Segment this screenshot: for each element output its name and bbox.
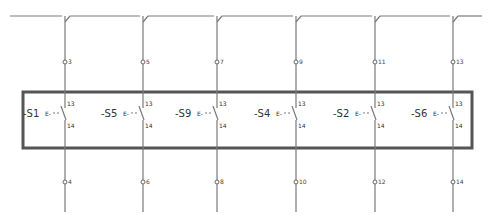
- pin-bottom-label: 14: [67, 122, 75, 129]
- pin-bottom-label: 14: [455, 122, 463, 129]
- pin-bottom-label: 14: [377, 122, 385, 129]
- terminal-bottom-label: 6: [146, 178, 150, 185]
- actuator-prefix: E-: [123, 110, 129, 117]
- terminal-top-icon: [215, 60, 219, 64]
- bus-junction: [453, 16, 458, 22]
- terminal-bottom-icon: [294, 180, 298, 184]
- terminal-top-label: 9: [299, 58, 303, 65]
- device-tag: -S6: [411, 108, 427, 119]
- pin-top-label: 13: [377, 100, 385, 107]
- pin-bottom-label: 14: [298, 122, 306, 129]
- pin-top-label: 13: [455, 100, 463, 107]
- bus-junction: [296, 16, 301, 22]
- switch-contact-icon: [449, 106, 454, 120]
- bus-junction: [65, 16, 70, 22]
- actuator-prefix: E-: [197, 110, 203, 117]
- terminal-bottom-label: 4: [68, 178, 72, 185]
- pin-top-label: 13: [219, 100, 227, 107]
- pin-top-label: 13: [298, 100, 306, 107]
- device-enclosure-box: [23, 92, 472, 148]
- schematic-canvas: 341314-S1E-561314-S5E-781314-S9E-9101314…: [0, 0, 493, 218]
- switch-column: 561314-S5E-: [101, 16, 153, 212]
- terminal-bottom-icon: [63, 180, 67, 184]
- pin-bottom-label: 14: [219, 122, 227, 129]
- terminal-top-label: 7: [220, 58, 224, 65]
- terminal-bottom-label: 8: [220, 178, 224, 185]
- switch-column: 11121314-S2E-: [333, 16, 386, 212]
- terminal-top-label: 3: [68, 58, 72, 65]
- terminal-bottom-icon: [141, 180, 145, 184]
- actuator-prefix: E-: [355, 110, 361, 117]
- bus-junction: [217, 16, 222, 22]
- switch-contact-icon: [213, 106, 218, 120]
- actuator-prefix: E-: [433, 110, 439, 117]
- terminal-top-label: 11: [378, 58, 386, 65]
- bus-junction: [143, 16, 148, 22]
- terminal-bottom-label: 14: [456, 178, 464, 185]
- terminal-top-icon: [141, 60, 145, 64]
- switch-contact-icon: [371, 106, 376, 120]
- terminal-top-label: 13: [456, 58, 464, 65]
- pin-top-label: 13: [145, 100, 153, 107]
- device-tag: -S2: [333, 108, 349, 119]
- device-tag: -S5: [101, 108, 117, 119]
- device-tag: -S9: [175, 108, 191, 119]
- terminal-top-label: 5: [146, 58, 150, 65]
- switch-contact-icon: [139, 106, 144, 120]
- device-tag: -S4: [254, 108, 270, 119]
- pin-top-label: 13: [67, 100, 75, 107]
- actuator-prefix: E-: [45, 110, 51, 117]
- switch-contact-icon: [61, 106, 66, 120]
- switch-column: 13141314-S6E-: [411, 16, 464, 212]
- terminal-top-icon: [373, 60, 377, 64]
- terminal-bottom-label: 12: [378, 178, 386, 185]
- terminal-top-icon: [451, 60, 455, 64]
- switch-column: 341314-S1E-: [23, 16, 75, 212]
- pin-bottom-label: 14: [145, 122, 153, 129]
- terminal-bottom-icon: [451, 180, 455, 184]
- switch-column: 9101314-S4E-: [254, 16, 307, 212]
- actuator-prefix: E-: [276, 110, 282, 117]
- device-tag: -S1: [23, 108, 39, 119]
- terminal-bottom-label: 10: [299, 178, 307, 185]
- switch-column: 781314-S9E-: [175, 16, 227, 212]
- bus-junction: [375, 16, 380, 22]
- terminal-bottom-icon: [215, 180, 219, 184]
- terminal-bottom-icon: [373, 180, 377, 184]
- terminal-top-icon: [294, 60, 298, 64]
- switch-contact-icon: [292, 106, 297, 120]
- terminal-top-icon: [63, 60, 67, 64]
